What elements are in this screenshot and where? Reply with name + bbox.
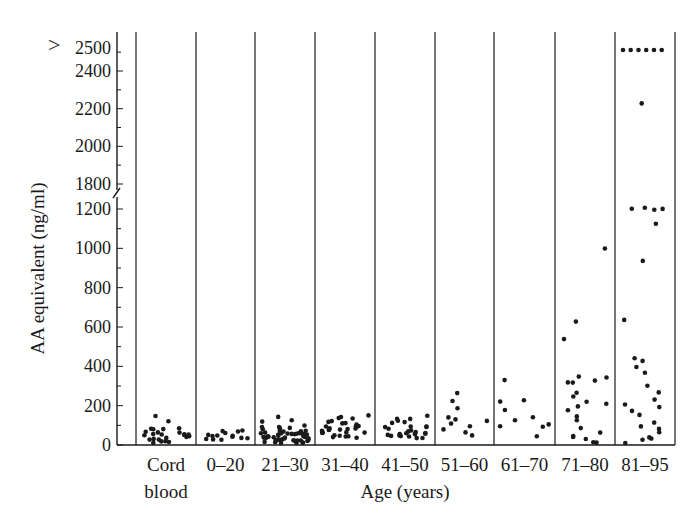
series-81-95 [621,48,665,446]
data-point [643,371,648,376]
data-point [637,413,642,418]
data-point [273,438,278,443]
data-point [657,405,662,410]
data-point [455,391,460,396]
data-point [211,437,216,442]
data-point [397,433,402,438]
data-point [513,418,518,423]
y-tick-label: 2200 [75,99,111,119]
data-point [206,433,211,438]
data-point [404,431,409,436]
x-category-label-line2: blood [144,481,188,502]
data-point [159,439,164,444]
data-point [260,425,265,430]
data-point [566,408,571,413]
y-tick-label: 400 [84,356,111,376]
data-point [236,429,241,434]
data-point [468,424,473,429]
y-axis: 0200400600800100012001800200022002400250… [48,32,675,455]
data-point [644,48,649,53]
data-point [153,414,158,419]
data-point [571,394,576,399]
data-point [291,438,296,443]
data-point [337,433,342,438]
data-point [329,419,334,424]
data-point [402,420,407,425]
data-point [413,432,418,437]
data-point [584,399,589,404]
data-point [332,433,337,438]
data-point [299,438,304,443]
data-point [598,430,603,435]
data-point [177,430,182,435]
data-point [574,390,579,395]
data-point [354,424,359,429]
data-point [634,365,639,370]
data-point [219,437,224,442]
data-point [306,436,311,441]
data-point [470,433,475,438]
data-point [485,419,490,424]
data-point [575,418,580,423]
data-point [498,399,503,404]
series-61-70 [498,378,551,439]
data-point [649,436,654,441]
data-point [383,425,388,430]
data-point [366,413,371,418]
data-point [593,378,598,383]
data-point [151,441,156,446]
series-71-80 [562,246,609,445]
x-category-label: 71–80 [561,454,609,475]
data-point [408,424,413,429]
data-point [414,436,419,441]
data-point [289,418,294,423]
data-point [455,406,460,411]
data-point [147,437,152,442]
data-point [390,421,395,426]
data-point [630,409,635,414]
data-point [151,432,156,437]
x-category-label: 81–95 [621,454,669,475]
y-tick-label: 2400 [75,61,111,81]
y-tick-label: 1800 [75,174,111,194]
data-point [584,437,589,442]
data-point [604,375,609,380]
data-point [632,356,637,361]
data-point [453,417,458,422]
category-columns [136,32,675,445]
data-point [449,421,454,426]
data-point [576,404,581,409]
x-axis-label: Age (years) [360,481,449,503]
data-point [604,402,609,407]
data-point [263,430,268,435]
data-point [285,431,290,436]
y-tick-label: 800 [84,278,111,298]
data-point [220,429,225,434]
data-point [652,208,657,213]
x-category-label: 41–50 [381,454,429,475]
data-point [463,430,468,435]
data-point [630,207,635,212]
data-point [230,434,235,439]
data-point [541,424,546,429]
data-point [166,419,171,424]
data-point [279,441,284,446]
data-point [639,424,644,429]
data-point [259,431,264,436]
data-point [288,426,293,431]
data-point [652,48,657,53]
data-point [283,435,288,440]
data-point [594,440,599,445]
data-point [660,207,665,212]
data-point [574,319,579,324]
data-point [292,432,297,437]
data-point [302,423,307,428]
data-points [142,48,665,446]
data-point [324,424,329,429]
x-category-label: 31–40 [321,454,369,475]
data-point [652,397,657,402]
x-category-label: 51–60 [441,454,489,475]
data-point [641,259,646,264]
data-point [161,427,166,432]
data-point [654,222,659,227]
